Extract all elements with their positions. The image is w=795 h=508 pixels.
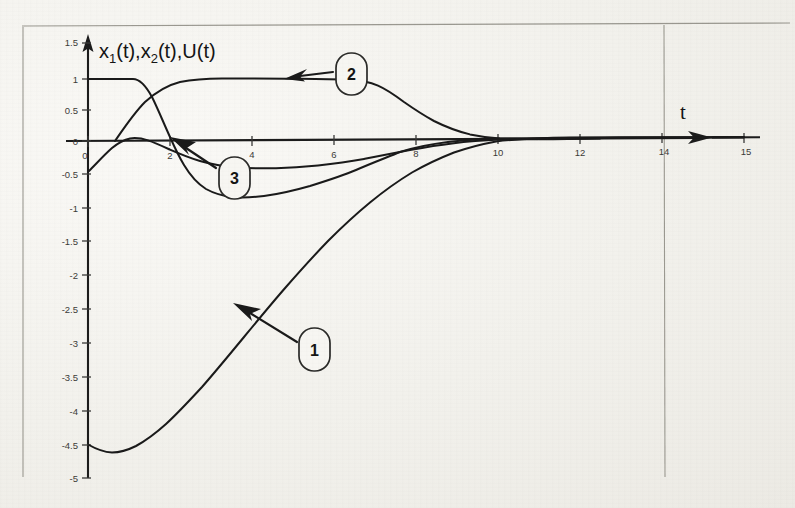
- y-tick-label: -1: [70, 203, 78, 214]
- x-tick-label: 0: [82, 150, 87, 161]
- x-axis-title: t: [680, 100, 686, 124]
- y-tick-label: 0: [73, 136, 78, 147]
- x-tick-label: 6: [331, 149, 336, 160]
- callout-1-label: 1: [310, 342, 319, 359]
- page-frame-lines: [22, 23, 790, 477]
- y-tick-label: -4.5: [62, 440, 78, 451]
- y-tick-label: -2: [70, 270, 78, 281]
- callout-3-label: 3: [230, 170, 239, 187]
- y-axis-title-part2: (t),x: [116, 40, 150, 62]
- y-tick-label: -5: [70, 473, 78, 484]
- y-tick-label: -3: [70, 338, 78, 349]
- y-tick-label: 0.5: [65, 105, 78, 116]
- chart-axes: [66, 34, 760, 478]
- y-axis-title: x1(t),x2(t),U(t): [99, 40, 216, 66]
- x-tick-label: 4: [249, 149, 254, 160]
- y-axis-ticks: [82, 43, 91, 478]
- y-axis-title-sub2: 2: [151, 51, 158, 66]
- x-tick-label: 14: [659, 146, 670, 157]
- callout-2-leader-line: [300, 72, 333, 76]
- y-tick-label: -1.5: [62, 236, 78, 247]
- x-tick-label: 10: [493, 147, 504, 158]
- callout-1-leader-line: [250, 313, 297, 342]
- y-axis-tick-labels: 1.5 1 0.5 0 -0.5 -1 -1.5 -2 -2.5 -3 -3.5…: [62, 37, 78, 484]
- callout-3[interactable]: 3: [170, 137, 250, 199]
- x-tick-label: 15: [741, 146, 752, 157]
- curve-x1-t: [89, 137, 744, 452]
- callout-2[interactable]: 2: [284, 53, 367, 95]
- y-tick-label: 1.5: [65, 37, 78, 48]
- callout-2-label: 2: [347, 66, 356, 83]
- x-tick-label: 2: [167, 150, 172, 161]
- frame-right-rule: [664, 25, 665, 477]
- y-tick-label: -0.5: [62, 169, 78, 180]
- figure-container: 1.5 1 0.5 0 -0.5 -1 -1.5 -2 -2.5 -3 -3.5…: [0, 0, 795, 508]
- y-tick-label: -3.5: [62, 372, 78, 383]
- y-axis-title-part1: x: [99, 40, 109, 62]
- y-tick-label: -4: [70, 406, 78, 417]
- y-axis-title-sub1: 1: [109, 51, 116, 66]
- y-axis-title-part3: (t),U(t): [158, 40, 216, 62]
- y-tick-label: 1: [73, 74, 78, 85]
- frame-top-rule: [22, 23, 790, 26]
- y-tick-label: -2.5: [62, 304, 78, 315]
- x-tick-label: 12: [575, 147, 586, 158]
- callout-1[interactable]: 1: [233, 303, 330, 371]
